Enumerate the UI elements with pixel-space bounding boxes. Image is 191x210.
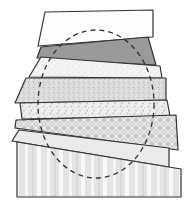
diagram-svg <box>0 0 191 210</box>
strip-4-gray-speckle <box>15 78 166 103</box>
stacked-strips-diagram <box>0 0 191 210</box>
strips-group <box>12 10 181 197</box>
